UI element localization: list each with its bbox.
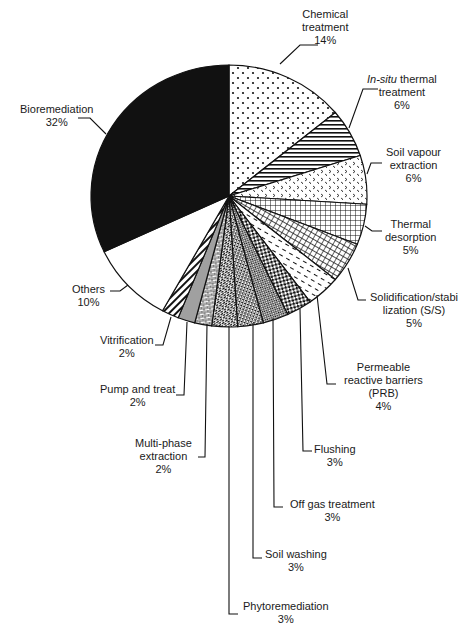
- label-italic: In-situ: [367, 73, 397, 85]
- label-text: Vitrification: [100, 334, 154, 347]
- label-text: Permeable: [344, 361, 423, 374]
- label-percent: 3%: [243, 613, 329, 626]
- label-flushing: Flushing 3%: [314, 443, 356, 469]
- label-text: Chemical: [302, 8, 348, 21]
- label-percent: 3%: [290, 511, 375, 524]
- label-text: desorption: [385, 231, 436, 244]
- label-percent: 6%: [386, 172, 441, 185]
- label-text: In-situ thermal: [367, 73, 437, 86]
- label-text: extraction: [386, 159, 441, 172]
- label-percent: 2%: [100, 396, 175, 409]
- label-insitu-thermal: In-situ thermal treatment 6%: [367, 73, 437, 112]
- label-pump-and-treat: Pump and treat 2%: [100, 383, 175, 409]
- label-text: Solidification/stabi: [370, 291, 458, 304]
- label-text: Multi-phase: [135, 437, 192, 450]
- label-text: lization (S/S): [370, 304, 458, 317]
- label-percent: 14%: [302, 34, 348, 47]
- label-thermal-desorption: Thermal desorption 5%: [385, 218, 436, 257]
- label-text: Off gas treatment: [290, 498, 375, 511]
- label-soil-vapour: Soil vapour extraction 6%: [386, 146, 441, 185]
- label-text: Phytoremediation: [243, 600, 329, 613]
- label-prb: Permeable reactive barriers (PRB) 4%: [344, 361, 423, 413]
- label-text: (PRB): [344, 387, 423, 400]
- label-text: treatment: [367, 86, 437, 99]
- label-percent: 2%: [135, 463, 192, 476]
- label-percent: 4%: [344, 400, 423, 413]
- label-phytoremediation: Phytoremediation 3%: [243, 600, 329, 626]
- label-percent: 5%: [370, 317, 458, 330]
- label-text: treatment: [302, 21, 348, 34]
- label-percent: 2%: [100, 347, 154, 360]
- label-bioremediation: Bioremediation 32%: [20, 103, 93, 129]
- label-percent: 3%: [314, 456, 356, 469]
- pie-slices: [91, 65, 367, 327]
- label-text: Thermal: [385, 218, 436, 231]
- label-text: Soil washing: [265, 548, 327, 561]
- label-vitrification: Vitrification 2%: [100, 334, 154, 360]
- label-text: Others: [72, 283, 105, 296]
- label-multi-phase: Multi-phase extraction 2%: [135, 437, 192, 476]
- label-text: Pump and treat: [100, 383, 175, 396]
- label-text: extraction: [135, 450, 192, 463]
- label-solidification: Solidification/stabi lization (S/S) 5%: [370, 291, 458, 330]
- label-percent: 3%: [265, 561, 327, 574]
- label-text: Bioremediation: [20, 103, 93, 116]
- label-soil-washing: Soil washing 3%: [265, 548, 327, 574]
- label-text: Soil vapour: [386, 146, 441, 159]
- label-off-gas: Off gas treatment 3%: [290, 498, 375, 524]
- label-percent: 32%: [20, 116, 93, 129]
- label-others: Others 10%: [72, 283, 105, 309]
- label-percent: 10%: [72, 296, 105, 309]
- label-chemical-treatment: Chemical treatment 14%: [302, 8, 348, 47]
- label-text: Flushing: [314, 443, 356, 456]
- label-percent: 5%: [385, 244, 436, 257]
- label-text: thermal: [397, 73, 437, 85]
- label-text: reactive barriers: [344, 374, 423, 387]
- label-percent: 6%: [367, 99, 437, 112]
